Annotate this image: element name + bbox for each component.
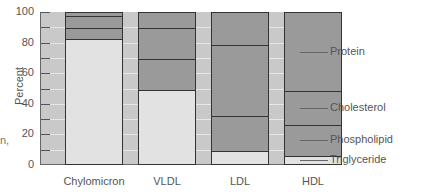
segment-cholesterol (212, 45, 268, 116)
leader-line-protein (300, 52, 328, 53)
plot-area (40, 12, 320, 165)
y-tick (40, 73, 50, 74)
y-tick (40, 58, 50, 59)
leader-line-cholesterol (300, 108, 328, 109)
y-tick (40, 43, 50, 44)
bar-ldl (211, 12, 269, 165)
segment-phospholipid (66, 28, 122, 39)
x-label-hdl: HDL (273, 175, 353, 187)
y-tick (40, 119, 50, 120)
y-tick (40, 104, 50, 105)
segment-phospholipid (212, 116, 268, 151)
y-tick (40, 27, 50, 28)
segment-triglyceride (139, 90, 195, 164)
x-label-vldl: VLDL (127, 175, 207, 187)
leader-line-triglyceride (300, 160, 328, 161)
y-tick (40, 150, 50, 151)
y-tick (40, 89, 50, 90)
legend-cholesterol: Cholesterol (330, 101, 386, 113)
stray-text-fragment: n, (0, 134, 9, 146)
y-tick-label-20: 20 (12, 127, 34, 139)
legend-triglyceride: Triglyceride (330, 153, 386, 165)
segment-triglyceride (66, 39, 122, 164)
y-tick-label-60: 60 (12, 66, 34, 78)
segment-protein (139, 13, 195, 28)
segment-cholesterol (139, 28, 195, 59)
y-tick (40, 12, 50, 13)
segment-triglyceride (212, 151, 268, 164)
y-tick-label-80: 80 (12, 36, 34, 48)
y-tick-label-0: 0 (12, 158, 34, 170)
leader-line-phospholipid (300, 140, 328, 141)
segment-protein (212, 13, 268, 45)
x-label-chylomicron: Chylomicron (54, 175, 134, 187)
bar-chylomicron (65, 12, 123, 165)
segment-cholesterol (66, 16, 122, 28)
y-axis-line (40, 12, 41, 165)
x-label-ldl: LDL (200, 175, 280, 187)
y-tick-label-100: 100 (12, 5, 34, 17)
y-tick-label-40: 40 (12, 97, 34, 109)
legend-phospholipid: Phospholipid (330, 133, 393, 145)
legend-protein: Protein (330, 45, 365, 57)
segment-phospholipid (139, 59, 195, 90)
y-tick (40, 134, 50, 135)
bar-vldl (138, 12, 196, 165)
